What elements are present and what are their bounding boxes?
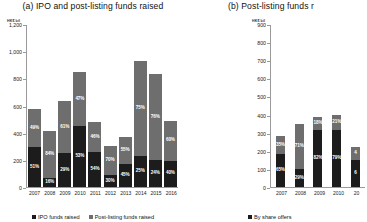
y-tick-label: 0 [19, 185, 22, 191]
panel-a-legend: IPO funds raisedPost-listing funds raise… [0, 214, 186, 220]
panel-a: (a) IPO and post-listing funds raised HK… [0, 0, 186, 222]
bar-segment-label: 75% [136, 106, 145, 111]
y-tick [23, 79, 26, 80]
bar-segment-upper: 71% [295, 124, 304, 169]
y-tick-label: 200 [13, 158, 22, 164]
bar-column[interactable]: 35%65% [276, 25, 285, 187]
y-tick-label: 300 [257, 131, 266, 137]
x-tick-label: 2007 [28, 190, 41, 196]
y-tick [267, 152, 270, 153]
bar-segment-label: 25% [136, 169, 145, 174]
panel-a-plot-area: 49%51%84%16%61%29%47%53%46%54%70%30%55%4… [26, 25, 178, 188]
x-tick-label: 2007 [276, 190, 285, 196]
legend-item[interactable]: By share offers [248, 214, 292, 220]
legend-swatch-icon [89, 215, 93, 219]
legend-label: Post-listing funds raised [95, 214, 154, 220]
bar-column[interactable]: 18%82% [313, 25, 322, 187]
bar-segment-upper: 21% [332, 115, 341, 130]
bar-segment-upper: 84% [43, 131, 56, 178]
bar-segment-label: 40% [166, 171, 175, 176]
chart-page: (a) IPO and post-listing funds raised HK… [0, 0, 367, 222]
bar-segment-label: 35% [276, 143, 285, 148]
panel-b-title: (b) Post-listing funds r [228, 1, 367, 11]
y-tick-label: 1,200 [9, 22, 22, 28]
y-tick-label: 800 [13, 76, 22, 82]
legend-item[interactable]: Post-listing funds raised [89, 214, 154, 220]
y-tick-label: 800 [257, 40, 266, 46]
x-tick-label: 2009 [314, 190, 323, 196]
bar-segment-label: 6 [354, 171, 356, 176]
bar-column[interactable]: 60%40% [164, 25, 177, 187]
bar-segment-upper: 47% [73, 72, 86, 126]
bar-column[interactable]: 75%25% [134, 25, 147, 187]
panel-b-x-labels: 200720082009201020 [271, 190, 366, 196]
y-tick [267, 43, 270, 44]
panel-a-x-axis [26, 187, 178, 188]
bar-segment-lower: 16% [43, 178, 56, 187]
bar-column[interactable]: 84%16% [43, 25, 56, 187]
y-tick [267, 25, 270, 26]
bar-segment-lower: 45% [119, 164, 132, 187]
bar-segment-lower: 6 [351, 160, 360, 187]
bar-segment-label: 21% [332, 120, 341, 125]
x-tick-label: 2009 [58, 190, 71, 196]
bar-segment-label: 24% [151, 171, 160, 176]
panel-b-x-axis [270, 187, 365, 188]
bar-segment-label: 82% [314, 156, 323, 161]
y-tick-label: 100 [257, 167, 266, 173]
bar-segment-label: 54% [90, 167, 99, 172]
y-tick [23, 188, 26, 189]
bar-segment-label: 30% [106, 179, 115, 184]
bar-column[interactable]: 76%24% [149, 25, 162, 187]
x-tick-label: 2013 [119, 190, 132, 196]
y-tick-label: 400 [13, 131, 22, 137]
bar-segment-upper: 61% [58, 101, 71, 154]
bar-column[interactable]: 46%54% [88, 25, 101, 187]
x-tick-label: 2010 [333, 190, 342, 196]
bar-segment-label: 55% [121, 148, 130, 153]
bar-segment-upper: 46% [88, 122, 101, 152]
bar-segment-lower: 65% [276, 154, 285, 187]
bar-segment-label: 53% [75, 154, 84, 159]
legend-label: IPO funds raised [38, 214, 80, 220]
bar-segment-lower: 29% [295, 169, 304, 187]
y-tick [267, 97, 270, 98]
panel-a-bar-group: 49%51%84%16%61%29%47%53%46%54%70%30%55%4… [27, 25, 178, 187]
bar-column[interactable]: 71%29% [295, 25, 304, 187]
bar-segment-upper: 4 [351, 147, 360, 160]
y-tick [267, 188, 270, 189]
y-tick-label: 500 [257, 94, 266, 100]
y-tick-label: 600 [13, 104, 22, 110]
bar-segment-upper: 35% [276, 136, 285, 154]
y-tick-label: 0 [263, 185, 266, 191]
bar-column[interactable]: 47%53% [73, 25, 86, 187]
y-tick-label: 900 [257, 22, 266, 28]
bar-segment-label: 79% [332, 156, 341, 161]
panel-a-title: (a) IPO and post-listing funds raised [0, 1, 186, 11]
y-tick [23, 52, 26, 53]
bar-segment-lower: 53% [73, 126, 86, 187]
legend-item[interactable]: IPO funds raised [32, 214, 80, 220]
bar-segment-lower: 51% [28, 147, 41, 187]
bar-segment-label: 46% [90, 135, 99, 140]
x-tick-label: 2011 [89, 190, 102, 196]
bar-column[interactable]: 70%30% [104, 25, 117, 187]
bar-segment-upper: 60% [164, 121, 177, 161]
y-tick-label: 600 [257, 76, 266, 82]
bar-column[interactable]: 61%29% [58, 25, 71, 187]
bar-column[interactable]: 55%45% [119, 25, 132, 187]
y-tick [23, 25, 26, 26]
bar-segment-lower: 29% [58, 153, 71, 187]
bar-segment-label: 51% [30, 165, 39, 170]
y-tick [267, 61, 270, 62]
bar-column[interactable]: 21%79% [332, 25, 341, 187]
bar-column[interactable]: 49%51% [28, 25, 41, 187]
panel-b-bar-group: 35%65%71%29%18%82%21%79%46 [271, 25, 365, 187]
y-tick [267, 170, 270, 171]
bar-segment-lower: 30% [104, 175, 117, 187]
x-tick-label: 2010 [74, 190, 87, 196]
bar-column[interactable]: 46 [351, 25, 360, 187]
y-tick [267, 79, 270, 80]
bar-segment-label: 84% [45, 152, 54, 157]
x-tick-label: 2008 [295, 190, 304, 196]
